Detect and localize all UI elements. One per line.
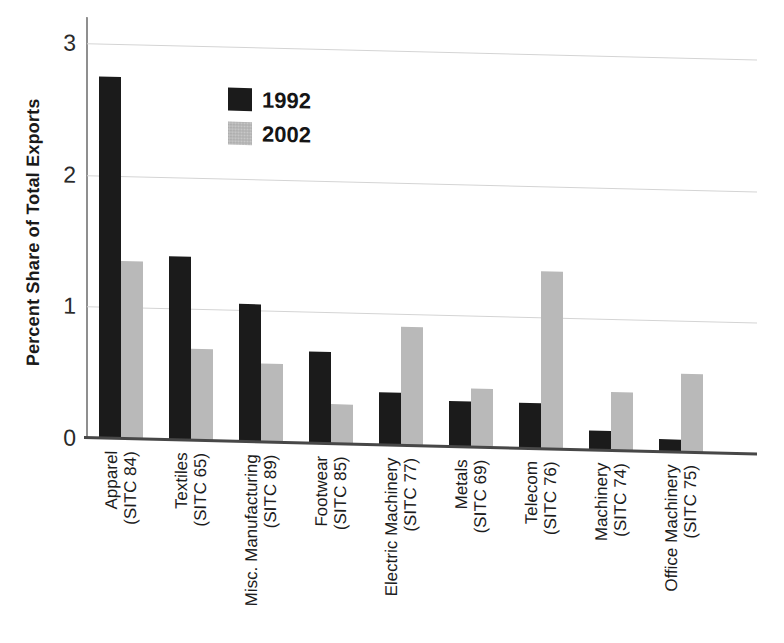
bar-telecom-1992 (519, 403, 541, 450)
y-axis-line (86, 17, 88, 438)
bar-misc-manufacturing-1992 (239, 304, 261, 443)
bar-office-machinery-2002 (681, 374, 703, 454)
bar-textiles-1992 (169, 256, 191, 441)
x-label-name: Textiles (172, 452, 191, 643)
x-label-metals: Metals(SITC 69) (452, 459, 490, 643)
bar-footwear-1992 (309, 352, 331, 445)
x-label-name: Office Machinery (662, 464, 681, 643)
bar-misc-manufacturing-2002 (261, 363, 283, 443)
x-label-telecom: Telecom(SITC 76) (522, 461, 560, 643)
bar-apparel-1992 (99, 76, 121, 439)
bar-apparel-2002 (121, 261, 143, 440)
y-axis-title: Percent Share of Total Exports (23, 82, 44, 383)
x-label-office-machinery: Office Machinery(SITC 75) (662, 464, 700, 643)
x-label-electric-machinery: Electric Machinery(SITC 77) (382, 457, 420, 643)
x-label-sitc: (SITC 75) (681, 465, 700, 643)
y-tick-label-1: 1 (36, 290, 76, 321)
bar-telecom-2002 (541, 271, 563, 450)
x-label-footwear: Footwear(SITC 85) (312, 456, 350, 643)
x-label-machinery: Machinery(SITC 74) (592, 462, 630, 643)
x-label-name: Electric Machinery (382, 457, 401, 643)
legend: 1992 2002 (228, 88, 311, 158)
legend-entry-1992: 1992 (228, 88, 311, 113)
bar-electric-machinery-2002 (401, 327, 423, 447)
bar-footwear-2002 (331, 404, 353, 445)
x-label-sitc: (SITC 74) (611, 463, 630, 643)
y-tick-label-3: 3 (36, 27, 76, 58)
x-label-misc-manufacturing: Misc. Manufacturing(SITC 89) (242, 454, 280, 643)
legend-label-2002: 2002 (262, 122, 311, 146)
x-label-name: Telecom (522, 461, 541, 643)
plot-area: Percent Share of Total Exports 0123 1992… (0, 0, 784, 643)
gridline-2 (87, 175, 757, 192)
x-label-name: Apparel (102, 450, 121, 643)
bar-machinery-2002 (611, 392, 633, 452)
bar-metals-2002 (471, 389, 493, 449)
y-tick-label-2: 2 (36, 159, 76, 190)
x-label-textiles: Textiles(SITC 65) (172, 452, 210, 643)
x-label-sitc: (SITC 77) (401, 458, 420, 643)
x-label-name: Misc. Manufacturing (242, 454, 261, 643)
legend-swatch-2002 (228, 122, 252, 146)
x-label-sitc: (SITC 69) (471, 460, 490, 643)
bar-metals-1992 (449, 401, 471, 448)
x-label-sitc: (SITC 65) (191, 453, 210, 643)
x-label-name: Footwear (312, 456, 331, 643)
gridline-3 (87, 43, 757, 60)
scanned-bar-chart: Percent Share of Total Exports 0123 1992… (0, 0, 784, 643)
x-label-apparel: Apparel(SITC 84) (102, 450, 140, 643)
legend-entry-2002: 2002 (228, 122, 311, 147)
legend-label-1992: 1992 (262, 88, 311, 112)
bar-textiles-2002 (191, 349, 213, 442)
x-label-sitc: (SITC 76) (541, 461, 560, 643)
x-label-name: Metals (452, 459, 471, 643)
x-label-sitc: (SITC 84) (121, 451, 140, 643)
x-label-name: Machinery (592, 462, 611, 643)
x-label-sitc: (SITC 89) (261, 454, 280, 643)
legend-swatch-1992 (228, 88, 252, 112)
x-label-sitc: (SITC 85) (331, 456, 350, 643)
bar-electric-machinery-1992 (379, 392, 401, 446)
y-tick-label-0: 0 (36, 422, 76, 453)
